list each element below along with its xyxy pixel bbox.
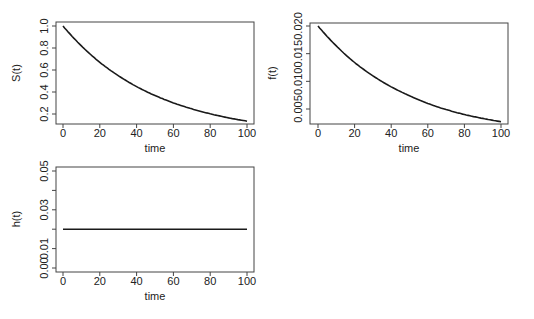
y-tick-label: 0.005 [292, 95, 304, 123]
survival-plots-figure: 020406080100time0.20.40.60.81.0S(t) 0204… [0, 0, 534, 319]
x-tick-label: 100 [238, 275, 256, 287]
y-axis-label: h(t) [10, 211, 22, 228]
y-axis-label: f(t) [266, 66, 278, 79]
x-tick-label: 20 [94, 127, 106, 139]
series-line-survival [63, 26, 247, 121]
plot-frame [56, 167, 254, 272]
x-tick-label: 80 [458, 127, 470, 139]
x-tick-label: 60 [167, 127, 179, 139]
y-tick-label: 0.03 [38, 199, 50, 220]
y-tick-label: 0.010 [292, 68, 304, 96]
x-tick-label: 40 [130, 127, 142, 139]
y-tick-label: 0.00 [38, 257, 50, 278]
y-axis: 0.0050.0100.0150.020 [292, 12, 310, 123]
x-tick-label: 0 [315, 127, 321, 139]
y-tick-label: 0.05 [38, 160, 50, 181]
x-tick-label: 20 [94, 275, 106, 287]
y-tick-label: 0.01 [38, 238, 50, 259]
y-tick-label: 0.4 [38, 84, 50, 99]
x-axis: 020406080100 [60, 124, 256, 139]
y-tick-label: 0.8 [38, 40, 50, 55]
x-tick-label: 60 [167, 275, 179, 287]
x-axis-label: time [399, 142, 420, 154]
x-tick-label: 20 [348, 127, 360, 139]
series-line-density [318, 26, 501, 122]
x-tick-label: 80 [204, 127, 216, 139]
x-axis: 020406080100 [315, 124, 510, 139]
plot-frame [56, 22, 254, 124]
plot-density: 020406080100time0.0050.0100.0150.020f(t) [266, 12, 510, 154]
y-axis: 0.20.40.60.81.0 [38, 18, 56, 121]
x-axis: 020406080100 [60, 272, 256, 287]
plot-hazard: 020406080100time0.000.010.030.05h(t) [10, 160, 256, 302]
x-axis-label: time [145, 290, 166, 302]
y-axis: 0.000.010.030.05 [38, 160, 56, 278]
x-tick-label: 100 [238, 127, 256, 139]
x-tick-label: 80 [204, 275, 216, 287]
y-axis-label: S(t) [10, 64, 22, 82]
y-tick-label: 1.0 [38, 18, 50, 33]
y-tick-label: 0.020 [292, 12, 304, 40]
x-tick-label: 100 [492, 127, 510, 139]
x-tick-label: 40 [130, 275, 142, 287]
y-tick-label: 0.2 [38, 106, 50, 121]
x-tick-label: 40 [385, 127, 397, 139]
x-tick-label: 0 [60, 127, 66, 139]
x-axis-label: time [145, 142, 166, 154]
x-tick-label: 60 [422, 127, 434, 139]
y-tick-label: 0.015 [292, 40, 304, 68]
plot-survival: 020406080100time0.20.40.60.81.0S(t) [10, 18, 256, 154]
x-tick-label: 0 [60, 275, 66, 287]
plot-frame [310, 23, 508, 124]
y-tick-label: 0.6 [38, 62, 50, 77]
